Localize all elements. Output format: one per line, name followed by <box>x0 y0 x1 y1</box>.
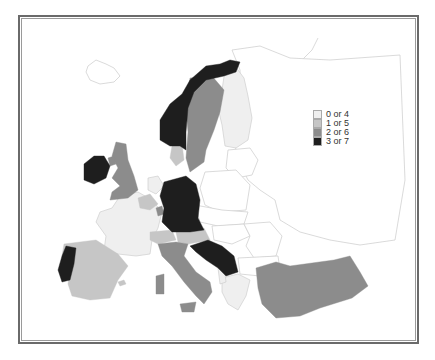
legend-label: 3 or 7 <box>326 137 349 146</box>
legend-swatch <box>313 119 322 128</box>
map-legend: 0 or 4 1 or 5 2 or 6 3 or 7 <box>313 110 349 146</box>
legend-swatch <box>313 137 322 146</box>
sardinia <box>156 274 164 294</box>
country-turkey <box>256 256 368 318</box>
country-yugoslavia <box>190 240 238 276</box>
country-ireland <box>84 156 110 184</box>
legend-swatch <box>313 128 322 137</box>
country-hungary <box>212 224 250 244</box>
legend-item: 3 or 7 <box>313 137 349 146</box>
country-romania <box>244 222 282 258</box>
country-germany <box>160 176 204 232</box>
country-iceland <box>86 60 120 84</box>
balearic-islands <box>118 280 126 286</box>
country-united-kingdom <box>110 142 138 200</box>
sicily <box>180 302 196 312</box>
legend-swatch <box>313 110 322 119</box>
country-greece <box>222 274 250 310</box>
europe-map <box>0 0 435 360</box>
